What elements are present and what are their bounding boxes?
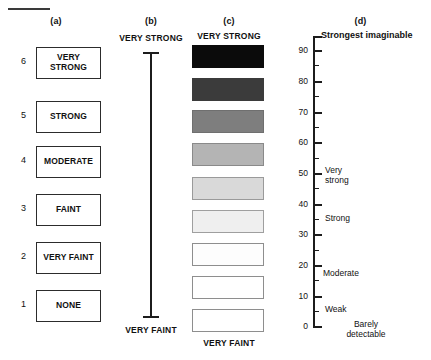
category-box-2[interactable]: VERY FAINT (36, 242, 101, 274)
category-row-5[interactable]: 5 STRONG (0, 101, 112, 133)
panel-b-visual-analogue-scale: (b) VERY STRONG VERY FAINT (112, 0, 190, 360)
category-box-5[interactable]: STRONG (36, 101, 101, 133)
category-label-2: VERY FAINT (43, 253, 94, 263)
nrs-tick-label-0: 0 (290, 321, 308, 331)
nrs-tick-label-70: 70 (290, 107, 308, 117)
nrs-tick-55 (315, 158, 319, 159)
grayscale-swatch-1[interactable] (192, 45, 264, 68)
nrs-anchor-barely-detectable: Barely detectable (330, 320, 402, 339)
nrs-tick-label-90: 90 (290, 45, 308, 55)
nrs-tick-label-40: 40 (290, 199, 308, 209)
category-box-4[interactable]: MODERATE (36, 146, 101, 178)
nrs-tick-label-30: 30 (290, 229, 308, 239)
nrs-tick-75 (315, 96, 319, 97)
vas-bottom-cap (143, 316, 159, 318)
category-label-1: NONE (56, 301, 81, 311)
nrs-tick-25 (315, 250, 319, 251)
category-label-6-line1: VERY (57, 52, 80, 62)
category-label-5: STRONG (50, 112, 87, 122)
category-label-6-line2: STRONG (50, 62, 87, 72)
grayscale-swatch-7[interactable] (192, 243, 264, 266)
nrs-anchor-very-strong-line2: strong (325, 175, 349, 185)
panel-c-top-anchor: VERY STRONG (188, 31, 270, 41)
grayscale-swatch-5[interactable] (192, 177, 264, 200)
nrs-axis-line[interactable] (313, 36, 315, 328)
nrs-tick-85 (315, 65, 319, 66)
category-box-3[interactable]: FAINT (36, 194, 101, 226)
nrs-anchor-very-strong: Very strong (325, 166, 349, 185)
nrs-anchor-barely-detectable-line2: detectable (346, 329, 385, 339)
grayscale-swatch-6[interactable] (192, 210, 264, 233)
grayscale-swatch-8[interactable] (192, 276, 264, 299)
nrs-anchor-strongest-imaginable: Strongest imaginable (321, 30, 413, 40)
nrs-tick-label-20: 20 (290, 260, 308, 270)
nrs-tick-20 (315, 265, 322, 267)
nrs-anchor-weak: Weak (325, 305, 347, 315)
panel-d-numeric-rating-scale: (d) 90 80 70 60 50 40 30 20 10 0 (290, 0, 431, 360)
category-label-4: MODERATE (44, 157, 93, 167)
nrs-tick-50 (315, 173, 322, 175)
category-number-1: 1 (12, 299, 26, 309)
nrs-tick-30 (315, 234, 322, 236)
nrs-anchor-barely-detectable-line1: Barely (354, 319, 378, 329)
grayscale-swatch-3[interactable] (192, 110, 264, 133)
category-number-5: 5 (12, 110, 26, 120)
panel-b-header: (b) (112, 16, 190, 26)
nrs-tick-70 (315, 112, 322, 114)
panel-a-header: (a) (0, 16, 112, 26)
figure-canvas: (a) 6 VERY STRONG 5 STRONG 4 MODERATE 3 (0, 0, 431, 360)
category-label-3: FAINT (56, 205, 81, 215)
category-box-6[interactable]: VERY STRONG (36, 47, 101, 79)
panel-c-grayscale-scale: (c) VERY STRONG VERY FAINT (190, 0, 286, 360)
nrs-tick-label-80: 80 (290, 76, 308, 86)
category-row-1[interactable]: 1 NONE (0, 290, 112, 322)
category-number-4: 4 (12, 155, 26, 165)
category-box-1[interactable]: NONE (36, 290, 101, 322)
nrs-tick-label-50: 50 (290, 168, 308, 178)
nrs-tick-15 (315, 280, 319, 281)
category-row-6[interactable]: 6 VERY STRONG (0, 47, 112, 79)
nrs-tick-45 (315, 188, 319, 189)
nrs-tick-label-60: 60 (290, 137, 308, 147)
category-row-3[interactable]: 3 FAINT (0, 194, 112, 226)
nrs-tick-0 (315, 326, 322, 328)
nrs-tick-5 (315, 311, 319, 312)
nrs-anchor-strong: Strong (325, 214, 350, 224)
nrs-tick-90 (315, 50, 322, 52)
nrs-tick-40 (315, 204, 322, 206)
grayscale-swatch-4[interactable] (192, 143, 264, 166)
grayscale-swatch-2[interactable] (192, 78, 264, 101)
nrs-tick-10 (315, 296, 322, 298)
nrs-tick-label-10: 10 (290, 291, 308, 301)
panel-c-header: (c) (190, 16, 268, 26)
panel-a-verbal-rating-scale: (a) 6 VERY STRONG 5 STRONG 4 MODERATE 3 (0, 0, 112, 360)
nrs-anchor-very-strong-line1: Very (325, 165, 342, 175)
nrs-tick-35 (315, 219, 319, 220)
vas-line[interactable] (150, 52, 152, 318)
nrs-tick-65 (315, 127, 319, 128)
panel-b-top-anchor: VERY STRONG (111, 33, 191, 43)
panel-c-bottom-anchor: VERY FAINT (188, 338, 270, 348)
category-row-4[interactable]: 4 MODERATE (0, 146, 112, 178)
panel-d-header: (d) (290, 16, 431, 26)
category-label-6: VERY STRONG (50, 53, 87, 72)
grayscale-swatch-9[interactable] (192, 309, 264, 332)
panel-b-bottom-anchor: VERY FAINT (111, 325, 191, 335)
category-row-2[interactable]: 2 VERY FAINT (0, 242, 112, 274)
nrs-tick-60 (315, 142, 322, 144)
category-number-6: 6 (12, 56, 26, 66)
nrs-anchor-moderate: Moderate (323, 269, 359, 279)
nrs-tick-80 (315, 81, 322, 83)
category-number-2: 2 (12, 251, 26, 261)
category-number-3: 3 (12, 203, 26, 213)
